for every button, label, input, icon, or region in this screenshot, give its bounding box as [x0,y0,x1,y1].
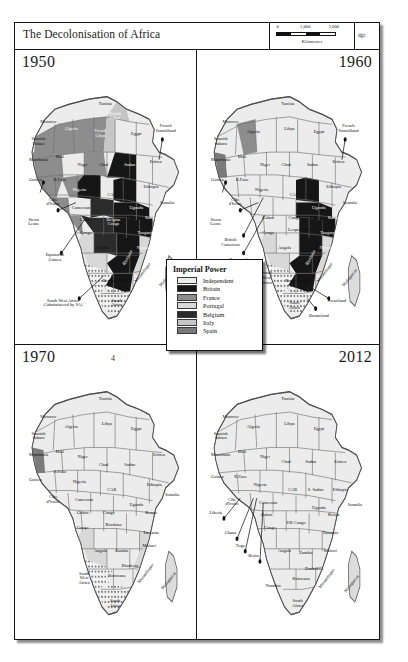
map-label: Benin [248,554,259,559]
scale-units-label: Kilometres [270,39,354,44]
map-label: Guinea [211,178,224,183]
legend-item: Independent [167,277,262,285]
map-label: Niger [260,162,270,167]
map-label: Angola [278,549,291,554]
map-label: Tanganyika [320,231,340,236]
map-label: Nigeria [255,188,268,193]
legend-item: Portugal [167,302,262,310]
map-label: Leopoldville [288,228,310,233]
map-label: B.Faso [54,178,66,183]
legend-item-label: Portugal [203,302,224,309]
map-label: Morocco [223,414,239,419]
map-label: Libya [284,127,294,132]
map-label: Chad [99,162,108,167]
map-label: Ethiopia [143,185,158,190]
map-label: Nigeria [73,480,86,485]
map-label: Guinea [211,475,224,480]
map-label: SpanishSahara [214,137,228,146]
legend-swatch [177,285,197,292]
map-label: Egypt [314,427,325,432]
map-label: Liberia [209,511,222,516]
map-label: Côted'Ivoire [46,198,59,207]
map-label: Zimbabwe [305,566,324,571]
map-label: Eritrea [333,160,345,165]
map-label: Eritrea [334,460,346,465]
map-label: Kenya [145,215,156,220]
map-label: Uganda [312,205,326,210]
legend-item: Spain [167,327,262,335]
legend-item-label: Britain [203,285,220,292]
map-label: Ethiopia [147,483,162,488]
map-label: Congo [289,215,301,220]
map-label: Cameroon [75,498,93,503]
map-label: Libya [284,422,294,427]
map-label: Congo [80,231,92,236]
map-label: Niger [78,455,88,460]
map-label: Bechuanaland [285,279,310,284]
credit-label: dgc [358,32,366,38]
map-label: Egypt [131,132,142,137]
map-label: Malawi [143,543,156,548]
map-label: BritishLibya [109,112,121,121]
map-label: Angola [96,246,109,251]
map-label: Eritrea [150,160,162,165]
map-label: Tunisia [99,102,112,107]
map-label: Malawi [324,549,337,554]
map-label: Côted'Ivoire [225,498,238,507]
africa-map-1970: MoroccoTunisiaAlgeriaSpanishSaharaLibyaE… [15,345,196,640]
map-label: Congo [262,231,274,236]
figure-frame: The Decolonisation of Africa 0 1,000 2,0… [14,22,380,640]
map-label: Egypt [131,427,142,432]
map-label: SpanishSahara [32,137,46,146]
legend-item: Britain [167,285,262,293]
map-label: Sudan [124,162,135,167]
map-label: Chad [282,162,291,167]
map-label: FrenchLibya [94,130,106,139]
map-label: Togo [236,543,245,548]
map-label: Ghana [225,531,236,536]
legend-swatch [177,302,197,309]
legend-rows: IndependentBritainFrancePortugalBelgiumI… [167,277,262,336]
map-label: Tunisia [281,397,294,402]
map-label: B.Faso [236,178,248,183]
legend-swatch [177,277,197,284]
map-label: Algeria [247,130,260,135]
map-label: Gabon [77,511,89,516]
map-label: Congo [103,511,115,516]
map-label: B.Faso [234,475,246,480]
map-label: Ethiopia [333,488,348,493]
map-label: Libya [102,422,112,427]
map-label: Nigeria [253,483,266,488]
legend-item: Belgium [167,311,262,319]
map-label: Uganda [129,503,143,508]
map-label: Morocco [223,120,239,125]
map-label: CAR [107,488,116,493]
map-label: Kenya [328,215,339,220]
legend-item-label: Spain [203,327,217,334]
map-label: Algeria [247,424,260,429]
scale-tick-1: 1,000 [300,24,310,29]
map-label: Chad [99,462,108,467]
map-label: Congo [264,526,276,531]
map-label: Guinea [29,178,42,183]
map-label: Somalia [343,200,357,205]
map-label: Morocco [40,120,56,125]
map-label: Niger [78,162,88,167]
map-label: Congo [77,526,89,531]
legend-swatch [177,327,197,334]
map-label: B.Faso [54,470,66,475]
map-label: Uganda [129,205,143,210]
map-label: Gabon [80,218,92,223]
map-label: FrenchSomaliland [156,125,176,134]
map-label: Kenya [328,513,339,518]
map-label: BritishCameroon [221,238,239,247]
map-label: SouthAfrica [109,599,120,608]
legend-item-label: Independent [203,277,234,284]
map-label: SierraLeone [28,218,39,227]
map-label: South West Africa(Administered by SA) [43,299,82,308]
map-label: Mali [56,155,64,160]
map-panel-1970: 1970 4 MoroccoTunisiaAlgeriaSpanishSahar… [15,345,197,640]
map-label: Mali [56,450,64,455]
map-label: Niger [260,455,270,460]
map-label: Somalia [160,200,174,205]
